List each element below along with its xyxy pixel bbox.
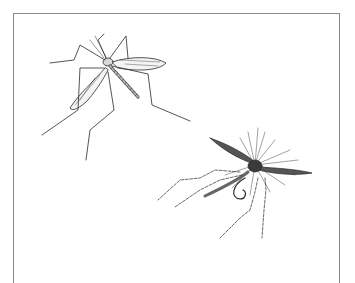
fishing-fly-drawing bbox=[158, 128, 312, 238]
crane-fly-drawing bbox=[42, 34, 190, 160]
